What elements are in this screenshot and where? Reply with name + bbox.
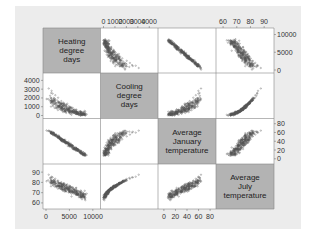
tick-label: 20 — [171, 213, 179, 220]
tick-label: 80 — [277, 120, 285, 127]
tick-label: 3000 — [24, 86, 40, 93]
tick-label: 4000 — [24, 77, 40, 84]
tick-label: 5000 — [61, 213, 77, 220]
diagonal-label-cooling-degree-days: Coolingdegreedays — [101, 73, 159, 119]
tick-label: 90 — [32, 169, 40, 176]
tick-label: 0 — [277, 155, 281, 162]
diagonal-label-average-january-temperature: AverageJanuarytemperature — [158, 119, 216, 165]
tick-label: 0 — [102, 18, 106, 25]
tick-label: 80 — [32, 179, 40, 186]
tick-label: 10000 — [277, 31, 296, 38]
tick-label: 40 — [277, 138, 285, 145]
tick-label: 0 — [44, 213, 48, 220]
diagonal-label-heating-degree-days: Heatingdegreedays — [43, 28, 101, 73]
tick-label: 60 — [219, 18, 227, 25]
tick-label: 0 — [162, 213, 166, 220]
tick-label: 10000 — [83, 213, 102, 220]
tick-label: 70 — [233, 18, 241, 25]
tick-label: 60 — [32, 199, 40, 206]
tick-label: 5000 — [277, 49, 293, 56]
tick-label: 80 — [206, 213, 214, 220]
tick-label: 2000 — [24, 94, 40, 101]
diagonal-label-average-july-temperature: AverageJulytemperature — [216, 164, 274, 209]
tick-label: 4000 — [141, 18, 157, 25]
tick-label: 70 — [32, 189, 40, 196]
tick-label: 60 — [277, 129, 285, 136]
tick-label: 1000 — [24, 103, 40, 110]
tick-label: 80 — [246, 18, 254, 25]
tick-label: 90 — [260, 18, 268, 25]
tick-label: 0 — [36, 112, 40, 119]
tick-label: 60 — [195, 213, 203, 220]
tick-label: 20 — [277, 147, 285, 154]
tick-label: 0 — [277, 67, 281, 74]
tick-label: 40 — [183, 213, 191, 220]
